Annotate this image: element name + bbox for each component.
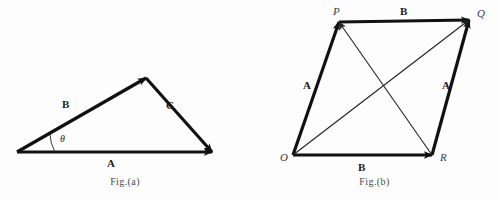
diagonal-r-to-p	[339, 22, 432, 155]
vector-b-top-label: B	[400, 6, 407, 17]
vector-c	[146, 78, 212, 152]
angle-arc-group	[50, 133, 55, 152]
figure-page: B C A θ Fig.(a) A B B A O P Q R Fig.(b)	[0, 0, 499, 201]
figure-a-canvas	[0, 0, 250, 201]
point-r-label: R	[440, 152, 447, 163]
vector-a-right-label: A	[442, 80, 450, 91]
theta-angle-arc	[50, 133, 55, 152]
vector-a-left-label: A	[303, 80, 311, 91]
figure-b-canvas	[250, 0, 499, 201]
figure-a-caption: Fig.(a)	[0, 176, 250, 187]
figure-a-vector-group	[17, 78, 212, 152]
vector-a-left	[293, 22, 339, 155]
point-p-label: P	[333, 6, 340, 17]
vector-b-bottom-label: B	[358, 162, 365, 173]
figure-a: B C A θ Fig.(a)	[0, 0, 250, 201]
vector-b	[17, 78, 146, 152]
point-o-label: O	[280, 152, 288, 163]
vector-b-top	[339, 20, 469, 22]
figure-b: A B B A O P Q R Fig.(b)	[250, 0, 499, 201]
vector-a-label: A	[107, 158, 115, 169]
vector-b-label: B	[62, 99, 69, 110]
vector-a-right	[432, 20, 469, 155]
theta-angle-label: θ	[60, 134, 65, 144]
vector-c-label: C	[166, 100, 174, 111]
figure-b-caption: Fig.(b)	[250, 176, 499, 187]
point-q-label: Q	[477, 8, 485, 19]
